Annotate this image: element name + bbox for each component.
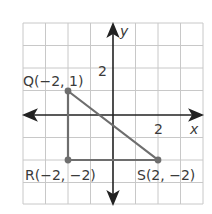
y-tick-label: 2 — [98, 63, 107, 79]
point-s-label: S(2, −2) — [137, 167, 195, 183]
point-s — [155, 157, 162, 164]
x-tick-label: 2 — [154, 121, 163, 137]
y-axis — [108, 24, 118, 204]
coordinate-plane: y x 2 2 Q(−2, 1) R(−2, −2) S(2, −2) — [0, 0, 212, 214]
point-r — [65, 157, 72, 164]
point-r-label: R(−2, −2) — [25, 167, 96, 183]
point-q-label: Q(−2, 1) — [23, 73, 83, 89]
x-axis-label: x — [189, 121, 199, 137]
y-axis-label: y — [119, 23, 129, 39]
